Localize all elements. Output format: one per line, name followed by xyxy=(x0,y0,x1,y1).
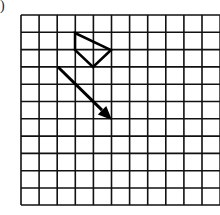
grid-diagram xyxy=(0,0,220,215)
arrow-vector xyxy=(58,67,102,110)
grid-lines xyxy=(21,15,220,205)
